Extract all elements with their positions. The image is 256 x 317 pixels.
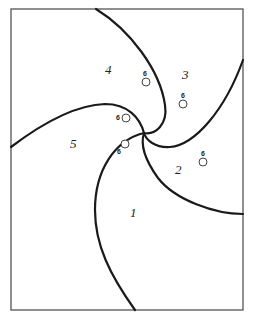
region-label-5: 5 <box>70 136 77 151</box>
marker-circle <box>199 158 207 166</box>
marker-circle <box>122 114 130 122</box>
boundary-curve-3-2 <box>144 60 243 147</box>
region-label-2: 2 <box>175 162 182 177</box>
region-label-3: 3 <box>181 67 189 82</box>
diagram-frame <box>11 9 243 310</box>
marker-circle <box>179 100 187 108</box>
marker-label: 6 <box>116 114 120 121</box>
region-label-1: 1 <box>130 205 137 220</box>
marker-label: 6 <box>181 92 185 99</box>
spiral-region-diagram: 1 2 3 4 5 6 6 6 6 6 <box>0 0 256 317</box>
boundary-curve-1-5 <box>95 133 144 310</box>
marker-circle <box>142 78 150 86</box>
marker-circle <box>121 140 129 148</box>
marker-label: 6 <box>117 148 121 155</box>
region-label-4: 4 <box>105 62 112 77</box>
marker-label: 6 <box>201 150 205 157</box>
marker-label: 6 <box>143 70 147 77</box>
